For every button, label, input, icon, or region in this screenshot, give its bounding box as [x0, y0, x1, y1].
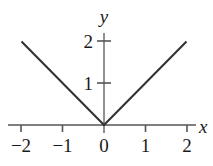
absolute-value-graph-figure: −2 −1 0 1 2 1 2 x y [0, 0, 213, 166]
x-axis-label: x [199, 117, 207, 136]
y-axis-label: y [100, 7, 108, 26]
x-tick-label-1: 1 [141, 136, 151, 155]
x-tick-label-2: 2 [182, 136, 192, 155]
x-tick-label-0: 0 [99, 136, 109, 155]
x-tick-label-minus1: −1 [52, 136, 72, 155]
x-tick-label-minus2: −2 [11, 136, 31, 155]
y-tick-label-1: 1 [84, 74, 94, 93]
y-tick-label-2: 2 [84, 32, 94, 51]
